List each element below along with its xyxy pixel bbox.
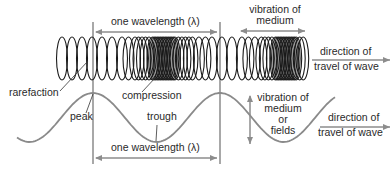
top-direction-label: direction of travel of wave bbox=[314, 46, 379, 72]
bottom-direction-label: direction of travel of wave bbox=[318, 112, 383, 138]
field-vibration-label: vibration of medium or fields bbox=[252, 92, 314, 136]
trough-leader bbox=[156, 125, 157, 141]
rarefaction-label: rarefaction bbox=[9, 87, 59, 98]
trough-label: trough bbox=[147, 111, 177, 122]
bottom-wavelength-label: one wavelength (λ) bbox=[111, 142, 200, 153]
longitudinal-spring bbox=[57, 37, 309, 80]
rarefaction-leader bbox=[60, 61, 88, 91]
compression-label: compression bbox=[122, 90, 182, 101]
bottom-direction-label-line2: travel of wave bbox=[318, 127, 383, 138]
peak-label: peak bbox=[70, 111, 93, 122]
top-wavelength-label: one wavelength (λ) bbox=[111, 16, 200, 27]
bottom-direction-label-line1: direction of bbox=[328, 112, 383, 123]
medium-vibration-label-line2: medium bbox=[244, 15, 306, 26]
field-vibration-label-line4: fields bbox=[252, 125, 314, 136]
top-direction-label-line2: travel of wave bbox=[314, 61, 379, 72]
top-direction-label-line1: direction of bbox=[320, 46, 379, 57]
medium-vibration-label: vibration of medium bbox=[244, 4, 306, 26]
